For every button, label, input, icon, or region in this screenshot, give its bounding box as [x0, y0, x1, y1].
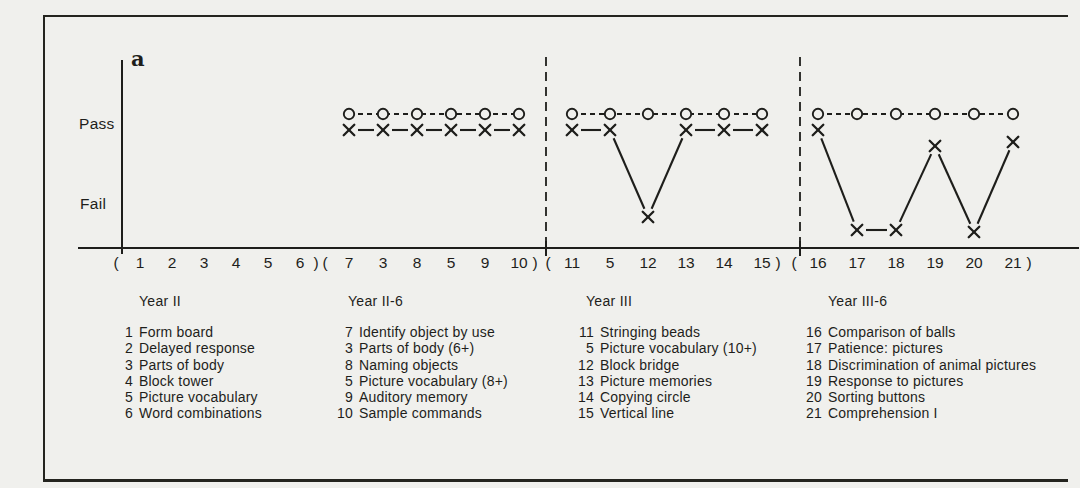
legend-item-number: 5	[116, 389, 133, 405]
legend-item-name: Discrimination of animal pictures	[828, 357, 1036, 373]
legend-item-name: Naming objects	[359, 357, 458, 373]
axis-item-number: 5	[447, 254, 456, 271]
panel-label: a	[131, 46, 145, 71]
circle-marker	[378, 109, 388, 119]
axis-item-number: 3	[379, 254, 388, 271]
legend-item: 17Patience: pictures	[805, 340, 1036, 356]
legend-item: 5Picture vocabulary (10+)	[577, 340, 757, 356]
circle-marker	[567, 109, 577, 119]
legend-group-heading: Year III	[586, 292, 757, 310]
x-series-segment	[978, 150, 1010, 223]
axis-item-number: 7	[345, 254, 354, 271]
circle-marker	[813, 109, 823, 119]
axis-item-number: 10	[510, 254, 528, 271]
axis-item-number: 5	[606, 254, 615, 271]
legend-item: 4Block tower	[116, 373, 262, 389]
legend-item-number: 1	[116, 324, 133, 340]
circle-marker	[852, 109, 862, 119]
legend-item: 14Copying circle	[577, 389, 757, 405]
legend-item-name: Block bridge	[600, 357, 679, 373]
legend-item: 6Word combinations	[116, 405, 262, 421]
legend-item-number: 20	[805, 389, 822, 405]
axis-item-number: 11	[564, 254, 580, 271]
circle-marker	[719, 109, 729, 119]
axis-close-paren: )	[775, 254, 780, 271]
legend-item-number: 15	[577, 405, 594, 421]
circle-marker	[681, 109, 691, 119]
axis-item-number: 6	[296, 254, 305, 271]
axis-item-number: 14	[715, 254, 733, 271]
legend-item-name: Auditory memory	[359, 389, 468, 405]
axis-item-number: 18	[887, 254, 904, 271]
legend-item: 13Picture memories	[577, 373, 757, 389]
legend-item: 16Comparison of balls	[805, 324, 1036, 340]
axis-item-number: 4	[232, 254, 241, 271]
legend-group: Year II1Form board2Delayed response3Part…	[116, 292, 262, 422]
legend-item-name: Form board	[139, 324, 213, 340]
legend-item-name: Parts of body	[139, 357, 224, 373]
axis-item-number: 3	[200, 254, 209, 271]
legend-item-number: 13	[577, 373, 594, 389]
legend-item-number: 6	[116, 405, 133, 421]
legend-item-name: Sample commands	[359, 405, 482, 421]
legend-item-name: Copying circle	[600, 389, 691, 405]
legend-item-name: Parts of body (6+)	[359, 340, 474, 356]
circle-marker	[514, 109, 524, 119]
legend-item-name: Picture vocabulary (10+)	[600, 340, 757, 356]
legend-item-number: 3	[116, 357, 133, 373]
legend-item: 5Picture vocabulary	[116, 389, 262, 405]
axis-close-paren: )	[313, 254, 318, 271]
legend-item-number: 18	[805, 357, 822, 373]
legend-item: 11Stringing beads	[577, 324, 757, 340]
legend-group: Year II-67Identify object by use3Parts o…	[336, 292, 508, 422]
legend-item-name: Stringing beads	[600, 324, 700, 340]
legend-item: 19Response to pictures	[805, 373, 1036, 389]
legend-group-heading: Year II	[139, 292, 262, 310]
legend-item-number: 5	[577, 340, 594, 356]
axis-open-paren: (	[791, 254, 797, 271]
legend-item-name: Word combinations	[139, 405, 262, 421]
axis-item-number: 17	[848, 254, 865, 271]
legend-item-number: 17	[805, 340, 822, 356]
legend-item: 5Picture vocabulary (8+)	[336, 373, 508, 389]
legend-item-name: Identify object by use	[359, 324, 495, 340]
circle-marker	[605, 109, 615, 119]
axis-open-paren: (	[322, 254, 328, 271]
legend-item-number: 7	[336, 324, 353, 340]
legend-item-name: Picture vocabulary	[139, 389, 258, 405]
axis-item-number: 5	[264, 254, 273, 271]
y-axis-pass-label: Pass	[79, 115, 115, 133]
x-series-segment	[939, 154, 971, 224]
legend-item: 12Block bridge	[577, 357, 757, 373]
legend-item-number: 11	[577, 324, 594, 340]
legend-item: 10Sample commands	[336, 405, 508, 421]
legend-item-number: 14	[577, 389, 594, 405]
figure-panel-a: 123456()7385910()11512131415()1617181920…	[0, 0, 1080, 488]
legend-item-name: Picture vocabulary (8+)	[359, 373, 508, 389]
legend-item: 21Comprehension I	[805, 405, 1036, 421]
axis-item-number: 20	[965, 254, 983, 271]
legend-item-name: Delayed response	[139, 340, 255, 356]
legend-item-number: 9	[336, 389, 353, 405]
circle-marker	[480, 109, 490, 119]
axis-item-number: 2	[168, 254, 177, 271]
legend-item-name: Sorting buttons	[828, 389, 925, 405]
axis-item-number: 15	[753, 254, 770, 271]
legend-item-number: 19	[805, 373, 822, 389]
legend-item-number: 10	[336, 405, 353, 421]
circle-marker	[969, 109, 979, 119]
legend-group-heading: Year II-6	[348, 292, 508, 310]
legend-item: 2Delayed response	[116, 340, 262, 356]
circle-marker	[757, 109, 767, 119]
legend-item: 15Vertical line	[577, 405, 757, 421]
legend-item-name: Patience: pictures	[828, 340, 943, 356]
axis-item-number: 1	[136, 254, 145, 271]
legend-item-name: Block tower	[139, 373, 214, 389]
circle-marker	[446, 109, 456, 119]
legend-item-name: Picture memories	[600, 373, 712, 389]
legend-item-name: Comprehension I	[828, 405, 938, 421]
legend-item-number: 5	[336, 373, 353, 389]
circle-marker	[643, 109, 653, 119]
legend-item-number: 2	[116, 340, 133, 356]
circle-marker	[891, 109, 901, 119]
